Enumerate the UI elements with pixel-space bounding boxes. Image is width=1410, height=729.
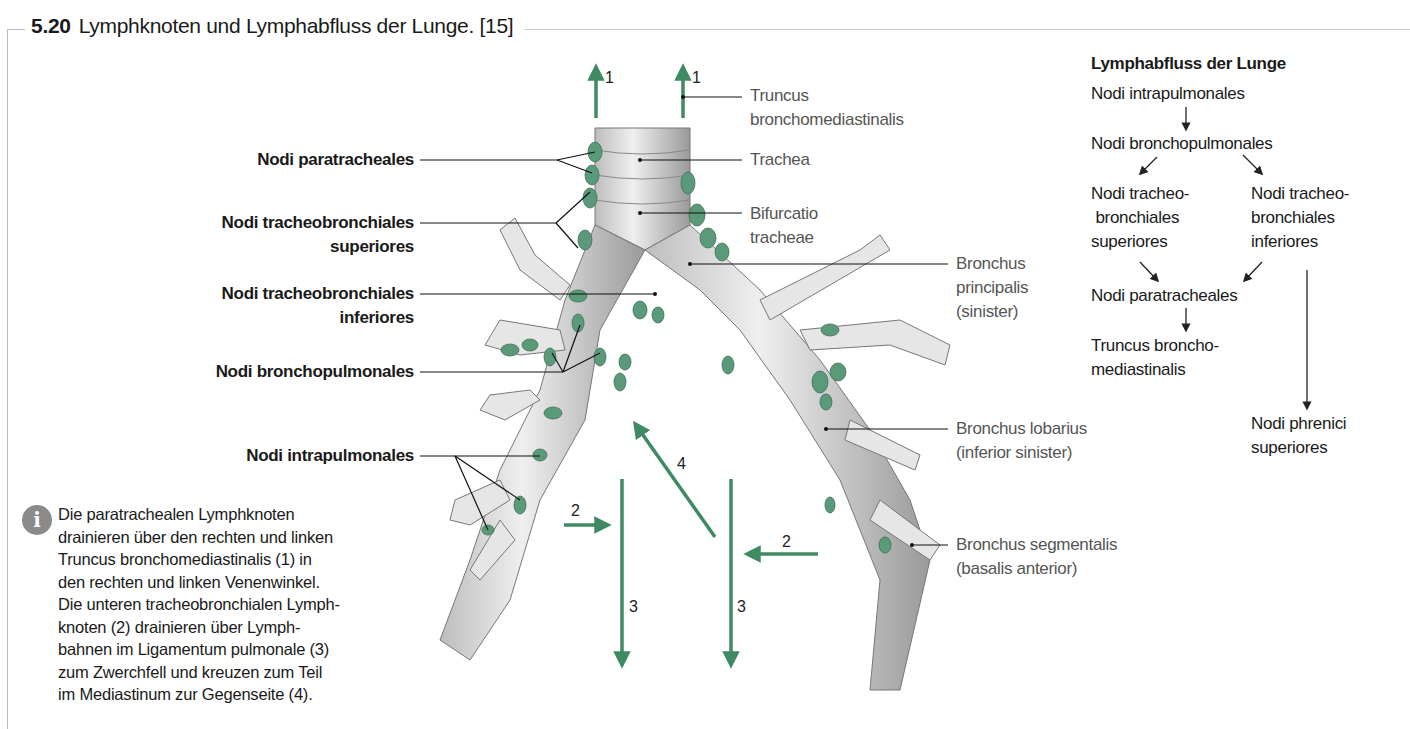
flowchart-heading: Lymphabfluss der Lunge <box>1091 52 1286 76</box>
info-line: zum Zwerchfell und kreuzen zum Teil <box>58 661 398 684</box>
label-bronchus-principalis: Bronchusprincipalis(sinister) <box>956 252 1028 324</box>
flow-node-phrenici-superiores: Nodi phrenicisuperiores <box>1251 412 1346 460</box>
flow-node-truncus: Truncus broncho-mediastinalis <box>1091 334 1219 382</box>
arrow-number-1-right: 1 <box>605 69 614 87</box>
label-nodi-tracheobronchiales-superiores: Nodi tracheobronchialessuperiores <box>222 211 414 259</box>
info-line: Die unteren tracheobronchialen Lymph- <box>58 593 398 616</box>
flow-node-paratracheales: Nodi paratracheales <box>1091 284 1237 308</box>
flow-node-tracheobronchiales-inferiores: Nodi tracheo-bronchialesinferiores <box>1251 182 1349 254</box>
flow-node-tracheobronchiales-superiores: Nodi tracheo- bronchialessuperiores <box>1091 182 1189 254</box>
info-line: drainieren über den rechten und linken <box>58 526 398 549</box>
info-line: bahnen im Ligamentum pulmonale (3) <box>58 638 398 661</box>
info-text: Die paratrachealen Lymphknoten drainiere… <box>58 503 398 706</box>
info-line: den rechten und linken Venenwinkel. <box>58 571 398 594</box>
info-line: Truncus bronchomediastinalis (1) in <box>58 548 398 571</box>
arrow-number-3-right: 3 <box>629 598 638 616</box>
info-line: Die paratrachealen Lymphknoten <box>58 503 398 526</box>
arrow-number-2-right: 2 <box>571 502 580 520</box>
label-nodi-paratracheales: Nodi paratracheales <box>257 148 414 172</box>
info-line: im Mediastinum zur Gegenseite (4). <box>58 683 398 706</box>
label-bifurcatio-tracheae: Bifurcatiotracheae <box>750 202 818 250</box>
arrow-number-3-left: 3 <box>737 598 746 616</box>
flow-node-intrapulmonales: Nodi intrapulmonales <box>1091 82 1245 106</box>
arrow-number-1-left: 1 <box>692 69 701 87</box>
flow-node-bronchopulmonales: Nodi bronchopulmonales <box>1091 132 1272 156</box>
arrow-number-4: 4 <box>677 455 686 473</box>
label-bronchus-lobarius: Bronchus lobarius(inferior sinister) <box>956 417 1087 465</box>
label-trachea: Trachea <box>750 148 810 172</box>
label-nodi-intrapulmonales: Nodi intrapulmonales <box>246 444 414 468</box>
label-nodi-tracheobronchiales-inferiores: Nodi tracheobronchialesinferiores <box>222 282 414 330</box>
info-line: knoten (2) drainieren über Lymph- <box>58 616 398 639</box>
arrow-number-2-left: 2 <box>782 533 791 551</box>
label-truncus-bronchomediastinalis: Truncusbronchomediastinalis <box>750 84 904 132</box>
label-bronchus-segmentalis: Bronchus segmentalis(basalis anterior) <box>956 533 1117 581</box>
label-nodi-bronchopulmonales: Nodi bronchopulmonales <box>216 360 414 384</box>
info-icon: i <box>22 505 52 535</box>
